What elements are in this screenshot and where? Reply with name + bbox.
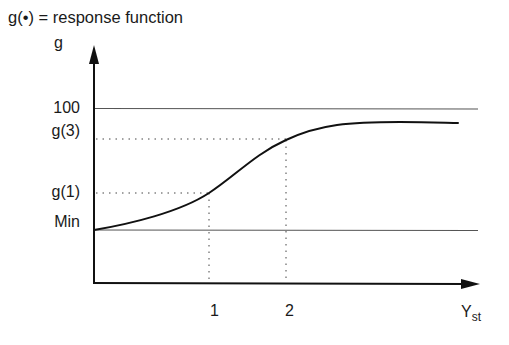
y-axis-arrow-icon — [89, 45, 99, 64]
x-axis-arrow-icon — [461, 279, 480, 289]
response-function-plot — [0, 0, 509, 345]
x-axis — [93, 283, 464, 284]
reference-line-min — [94, 230, 478, 231]
reference-line-100 — [94, 109, 478, 110]
response-curve — [94, 122, 458, 230]
